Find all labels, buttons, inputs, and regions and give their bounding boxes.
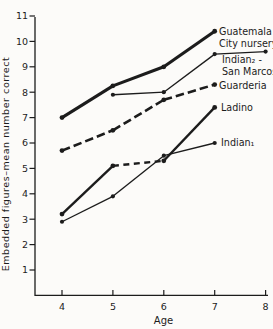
series-line-indian1	[164, 143, 215, 156]
series-line-indian1	[113, 156, 164, 197]
data-point-guatemala-city-nursery	[212, 29, 217, 34]
data-point-indian2-san-marcos	[162, 90, 166, 94]
data-point-guatemala-city-nursery	[111, 83, 116, 88]
series-line-indian1	[62, 196, 113, 221]
data-point-indian2-san-marcos	[111, 93, 115, 97]
y-tick-label: 1	[22, 264, 28, 275]
figure-canvas: 123456789101145678 GuatemalaCity nursery…	[0, 0, 273, 329]
data-point-ladino	[111, 163, 116, 168]
data-point-ladino	[161, 158, 166, 163]
x-tick-label: 8	[263, 301, 269, 312]
y-tick-label: 6	[22, 137, 28, 148]
y-tick-label: 5	[22, 163, 28, 174]
data-point-indian1	[213, 141, 217, 145]
y-tick-label: 4	[22, 188, 28, 199]
series-indian1	[60, 141, 217, 224]
series-line-guatemala-city-nursery	[164, 31, 215, 67]
x-axis-title: Age	[154, 315, 173, 326]
series-line-guarderia	[62, 130, 113, 150]
series-labels-layer: GuatemalaCity nurseryIndian₂ -San Marcos…	[219, 26, 273, 148]
data-point-ladino	[60, 212, 65, 217]
series-label-guatemala-city-nursery: GuatemalaCity nursery	[219, 26, 273, 49]
series-line-ladino	[62, 166, 113, 214]
series-line-guatemala-city-nursery	[62, 86, 113, 118]
y-tick-label: 10	[16, 36, 28, 47]
data-point-indian1	[111, 194, 115, 198]
series-line-guatemala-city-nursery	[113, 67, 164, 86]
series-line-indian2-san-marcos	[113, 92, 164, 95]
data-point-indian2-san-marcos	[264, 49, 268, 53]
y-tick-label: 8	[22, 87, 28, 98]
y-tick-label: 11	[16, 10, 28, 21]
data-point-indian1	[60, 220, 64, 224]
series-label-guarderia: Guarderia	[219, 80, 267, 91]
data-point-guarderia	[212, 82, 217, 87]
data-point-guarderia	[161, 97, 166, 102]
x-tick-label: 7	[212, 301, 218, 312]
x-tick-label: 6	[161, 301, 167, 312]
y-tick-label: 9	[22, 61, 28, 72]
y-tick-label: 3	[22, 214, 28, 225]
y-axis-title: Embedded figures–mean number correct	[0, 57, 11, 272]
x-tick-label: 5	[110, 301, 116, 312]
data-point-ladino	[212, 105, 217, 110]
data-point-guatemala-city-nursery	[161, 64, 166, 69]
y-tick-label: 7	[22, 112, 28, 123]
series-label-indian2-san-marcos: Indian₂ -San Marcos	[222, 54, 273, 77]
series-line-guarderia	[113, 100, 164, 130]
series-label-indian1: Indian₁	[221, 137, 255, 148]
x-tick-label: 4	[59, 301, 65, 312]
data-point-guarderia	[60, 148, 65, 153]
series-ladino	[60, 105, 218, 216]
series-line-ladino	[164, 107, 215, 160]
data-point-guatemala-city-nursery	[60, 115, 65, 120]
y-tick-label: 2	[22, 239, 28, 250]
data-point-indian1	[162, 154, 166, 158]
chart-svg: 123456789101145678 GuatemalaCity nursery…	[0, 0, 273, 329]
series-guatemala-city-nursery	[60, 29, 218, 120]
data-point-guarderia	[111, 128, 116, 133]
series-label-ladino: Ladino	[221, 102, 253, 113]
data-point-indian2-san-marcos	[213, 52, 217, 56]
